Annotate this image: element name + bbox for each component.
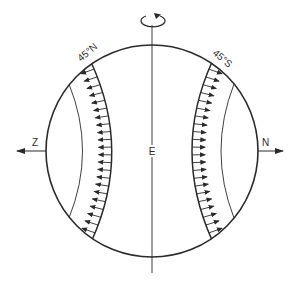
band-45s-outer-arc <box>221 84 234 218</box>
displacement-arrow-icon <box>195 184 208 186</box>
displacement-arrow-icon <box>206 221 219 225</box>
label-n: N <box>262 137 269 148</box>
displacement-arrow-icon <box>97 124 110 126</box>
displacement-arrow-icon <box>98 132 111 133</box>
displacement-arrow-icon <box>95 116 108 118</box>
displacement-arrow-icon <box>201 93 214 96</box>
rotation-arrow-icon <box>141 13 165 27</box>
displacement-arrow-icon <box>197 191 210 193</box>
displacement-arrow-icon <box>85 221 98 225</box>
displacement-arrow-icon <box>92 199 105 202</box>
displacement-arrow-icon <box>94 108 107 110</box>
displacement-arrow-icon <box>94 191 107 193</box>
displacement-arrow-icon <box>195 116 208 118</box>
displacement-arrow-icon <box>203 214 216 218</box>
displacement-arrow-icon <box>98 169 111 170</box>
band-45n-boundary <box>91 62 112 240</box>
label-45s: 45°S <box>211 47 235 70</box>
band-45s <box>192 62 234 240</box>
band-45n-outer-arc <box>69 84 83 218</box>
displacement-arrow-icon <box>96 184 109 186</box>
displacement-arrow-icon <box>98 139 111 140</box>
displacement-arrow-icon <box>194 124 207 126</box>
displacement-arrow-icon <box>206 77 219 81</box>
label-e: E <box>149 146 156 157</box>
displacement-arrow-icon <box>194 177 207 179</box>
displacement-arrow-icon <box>98 162 111 163</box>
displacement-arrow-icon <box>198 199 211 202</box>
displacement-arrow-icon <box>192 139 205 140</box>
band-45n-arrows <box>81 69 112 233</box>
displacement-arrow-icon <box>90 206 103 209</box>
displacement-arrow-icon <box>84 77 97 81</box>
displacement-arrow-icon <box>87 85 100 89</box>
displacement-arrow-icon <box>97 177 110 179</box>
displacement-arrow-icon <box>193 169 206 170</box>
displacement-arrow-icon <box>90 93 103 96</box>
displacement-arrow-icon <box>88 214 101 218</box>
band-45s-arrows <box>192 69 222 233</box>
displacement-arrow-icon <box>92 100 105 103</box>
displacement-arrow-icon <box>192 162 205 163</box>
label-z: Z <box>32 137 38 148</box>
displacement-arrow-icon <box>201 206 214 209</box>
displacement-arrow-icon <box>198 100 211 103</box>
band-45s-boundary <box>192 62 212 240</box>
displacement-arrow-icon <box>197 108 210 110</box>
label-45n: 45°N <box>75 41 99 64</box>
sphere-diagram: Z N E 45°N 45°S <box>0 0 294 283</box>
displacement-arrow-icon <box>193 132 206 133</box>
displacement-arrow-icon <box>203 85 216 89</box>
band-45n <box>69 62 112 240</box>
